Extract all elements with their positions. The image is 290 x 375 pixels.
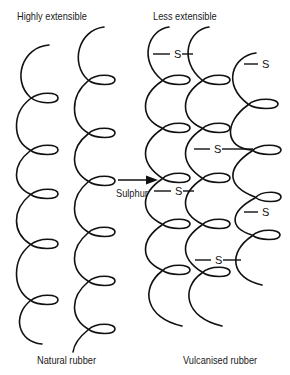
svg-text:S: S [262, 58, 269, 70]
crosslink-6: S [195, 254, 241, 266]
vulcanised-chain-a [146, 27, 191, 326]
crosslink-3: S [194, 143, 253, 155]
crosslink-2: S [244, 58, 269, 70]
crosslink-4: S [154, 185, 194, 197]
svg-text:S: S [174, 48, 181, 60]
rubber-structure-diagram: S S S S S S [0, 0, 290, 375]
vulcanised-chain-c [230, 53, 281, 285]
svg-text:S: S [262, 206, 269, 218]
svg-text:S: S [175, 185, 182, 197]
svg-text:S: S [215, 254, 222, 266]
svg-text:S: S [214, 143, 221, 155]
natural-rubber-chain-1 [17, 45, 59, 344]
natural-rubber-chain-2 [73, 27, 115, 352]
vulcanised-chain-b [186, 27, 231, 326]
crosslink-1: S [153, 48, 193, 60]
crosslink-5: S [244, 206, 269, 218]
